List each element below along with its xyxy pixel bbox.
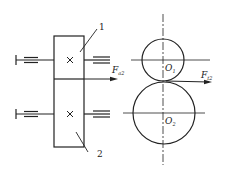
part-label-1: 1 (99, 22, 105, 32)
leader-line-2 (76, 132, 88, 152)
leader-line-1 (80, 29, 97, 52)
x-mark-icon (67, 57, 73, 63)
tangential-force-label: Ft2 (200, 70, 212, 81)
gear-pair-side-view (54, 36, 84, 147)
axial-arrowhead-icon (110, 77, 118, 81)
center-label-o2: O2 (165, 116, 176, 127)
lower-left-shaft (16, 109, 54, 119)
axial-force-label: Fa2 (111, 65, 124, 76)
upper-left-shaft (16, 55, 54, 65)
upper-right-shaft (84, 57, 110, 63)
lower-right-shaft (84, 111, 110, 117)
center-label-o1: O1 (165, 63, 176, 74)
x-mark-icon (67, 111, 73, 117)
gear-diagram: 1 2 Fa2 O1 O2 Ft2 (0, 0, 225, 174)
part-label-2: 2 (97, 149, 103, 159)
tangential-force-arrow (166, 81, 209, 82)
